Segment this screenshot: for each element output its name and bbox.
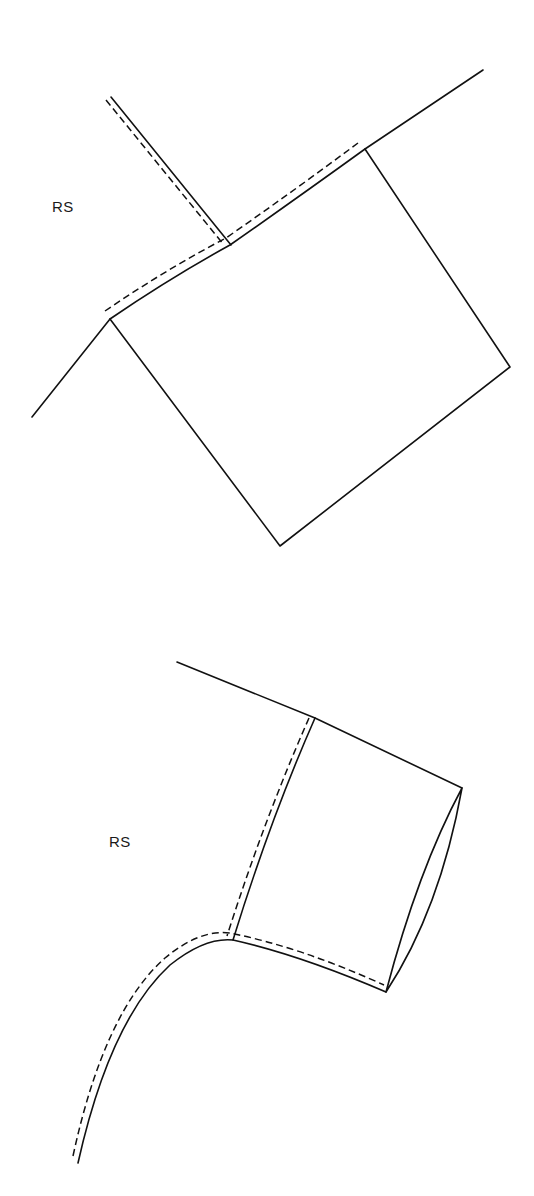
figure-bottom-sewn-cuff: [73, 662, 462, 1163]
stitch-line-underarm: [73, 933, 384, 1156]
cuff-rectangle: [110, 149, 510, 546]
rs-label-bottom: RS: [109, 833, 131, 850]
figure-top-flat-cuff: [32, 70, 510, 546]
rs-label-top: RS: [52, 198, 74, 215]
sleeve-seam-line: [233, 718, 315, 940]
cuff-opening: [386, 788, 462, 992]
sleeve-edge-line: [32, 70, 483, 417]
sewing-diagram: RS RS: [0, 0, 534, 1196]
stitch-line-sleeve-seam: [227, 718, 309, 936]
sleeve-top-edge: [177, 662, 462, 788]
stitch-line-sleeve-edge: [105, 143, 358, 311]
underarm-curve: [78, 940, 386, 1163]
stitch-line-sleeve-seam: [106, 100, 224, 245]
diagram-canvas: [0, 0, 534, 1196]
sleeve-seam-line: [111, 97, 231, 245]
